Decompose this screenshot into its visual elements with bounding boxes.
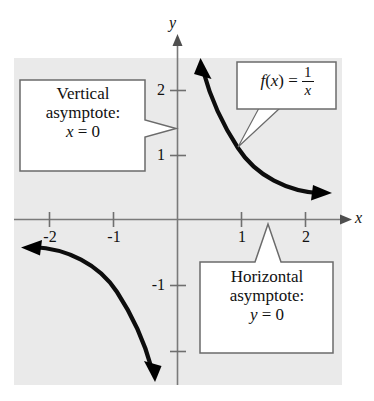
y-tick-label-minus1: -1 bbox=[136, 276, 165, 294]
figure-container: y x -2 -1 1 2 2 1 -1 Vertical asymptote:… bbox=[0, 0, 374, 401]
x-tick-label-2: 2 bbox=[292, 228, 320, 246]
y-tick-label-2: 2 bbox=[143, 81, 165, 99]
x-tick-label-minus1: -1 bbox=[100, 228, 128, 246]
x-tick-label-1: 1 bbox=[228, 228, 256, 246]
function-callout-box bbox=[237, 62, 336, 109]
plot-canvas bbox=[0, 0, 374, 401]
x-tick-label-minus2: -2 bbox=[36, 228, 64, 246]
y-axis-arrowhead bbox=[173, 34, 183, 46]
y-tick-label-1: 1 bbox=[143, 146, 165, 164]
y-axis-label: y bbox=[169, 14, 176, 32]
x-axis-label: x bbox=[355, 209, 362, 227]
x-axis-arrowhead bbox=[340, 215, 352, 225]
